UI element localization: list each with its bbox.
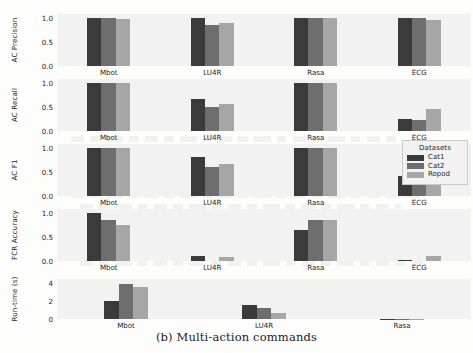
y-tick-label: 0.5 (13, 102, 53, 111)
x-tick-label-rasa: Rasa (307, 133, 324, 142)
bar-group (191, 79, 234, 131)
bar-cat2-rasa (308, 83, 322, 131)
bar-ropod-ecg (426, 256, 440, 261)
x-tick-label-rasa: Rasa (307, 68, 324, 77)
bars-container (57, 279, 471, 319)
bar-group (87, 14, 130, 66)
bar-cat2-rasa (308, 18, 322, 66)
x-tick-label-mbot: Mbot (100, 68, 118, 77)
bar-cat2-rasa (308, 220, 322, 261)
legend-entries: Cat1Cat2Ropod (407, 154, 463, 178)
bar-group (191, 144, 234, 196)
bar-ropod-ecg (426, 109, 440, 131)
x-tick-label-rasa: Rasa (393, 321, 410, 330)
bar-cat1-lu4r (191, 18, 205, 66)
bar-cat1-rasa (294, 148, 308, 196)
bar-cat2-rasa (308, 148, 322, 196)
bar-group (191, 14, 234, 66)
bar-group (87, 209, 130, 261)
bar-ropod-mbot (116, 148, 130, 196)
x-tick-label-mbot: Mbot (100, 198, 118, 207)
x-tick-label-mbot: Mbot (100, 263, 118, 272)
bar-cat1-lu4r (191, 256, 205, 261)
bar-cat2-ecg (412, 120, 426, 131)
bar-group (294, 144, 337, 196)
bar-cat2-lu4r (205, 25, 219, 66)
figure-caption: (b) Multi-action commands (0, 330, 473, 344)
y-tick-label: 0.0 (13, 192, 53, 201)
legend-entry-label: Cat2 (428, 163, 444, 170)
bar-cat1-ecg (398, 260, 412, 261)
bar-cat2-mbot (101, 18, 115, 66)
y-tick-label: 0.5 (13, 167, 53, 176)
bar-cat2-ecg (412, 18, 426, 66)
bar-group (294, 14, 337, 66)
bar-group (398, 79, 441, 131)
bars-container (57, 79, 471, 131)
bar-ropod-rasa (323, 148, 337, 196)
bar-cat2-mbot (101, 83, 115, 131)
y-tick-label: 1.0 (13, 78, 53, 87)
bar-cat2-lu4r (205, 107, 219, 131)
y-tick-label: 0.5 (13, 37, 53, 46)
bar-ropod-mbot (133, 287, 147, 319)
bar-cat2-mbot (101, 148, 115, 196)
bar-ropod-lu4r (219, 23, 233, 66)
bar-group (294, 79, 337, 131)
x-tick-label-mbot: Mbot (117, 321, 135, 330)
bar-cat1-lu4r (242, 305, 256, 319)
subplot-ac-precision (57, 14, 471, 66)
bar-cat1-rasa (294, 18, 308, 66)
subplot-ac-recall (57, 79, 471, 131)
x-tick-label-ecg: ECG (412, 68, 427, 77)
bars-container (57, 14, 471, 66)
legend-swatch-icon (407, 172, 424, 178)
y-tick-label: 0.0 (13, 257, 53, 266)
bar-group (87, 144, 130, 196)
x-tick-label-ecg: ECG (412, 198, 427, 207)
y-tick-label: 0.0 (13, 127, 53, 136)
bar-group (398, 14, 441, 66)
bar-cat1-mbot (87, 213, 101, 261)
x-tick-label-rasa: Rasa (307, 263, 324, 272)
y-tick-label: 0.5 (13, 232, 53, 241)
bar-group (398, 209, 441, 261)
bar-ropod-mbot (116, 83, 130, 131)
y-tick-label: 0 (13, 315, 53, 324)
bar-ropod-lu4r (219, 164, 233, 196)
legend-entry-label: Ropod (428, 171, 450, 178)
bar-cat1-mbot (87, 18, 101, 66)
bar-ropod-lu4r (219, 104, 233, 131)
subplot-fcr-accuracy (57, 209, 471, 261)
y-tick-label: 1.0 (13, 143, 53, 152)
legend-entry: Ropod (407, 171, 463, 178)
legend-swatch-icon (407, 163, 424, 169)
bar-group (380, 279, 423, 319)
bar-cat1-rasa (294, 230, 308, 261)
bar-cat1-ecg (398, 119, 412, 131)
legend-entry: Cat2 (407, 163, 463, 170)
legend-entry: Cat1 (407, 154, 463, 161)
y-tick-label: 1.0 (13, 208, 53, 217)
x-tick-label-lu4r: LU4R (203, 133, 221, 142)
bar-cat1-ecg (398, 18, 412, 66)
bar-ropod-lu4r (271, 313, 285, 319)
bar-cat1-mbot (87, 83, 101, 131)
bar-group (87, 79, 130, 131)
x-tick-label-lu4r: LU4R (203, 198, 221, 207)
y-tick-label: 2 (13, 296, 53, 305)
bar-cat2-lu4r (257, 308, 271, 319)
y-tick-label: 1.0 (13, 13, 53, 22)
bar-group (191, 209, 234, 261)
bar-group (294, 209, 337, 261)
bar-ropod-ecg (426, 20, 440, 66)
bar-cat2-mbot (119, 284, 133, 319)
bar-cat1-lu4r (191, 99, 205, 131)
legend-swatch-icon (407, 155, 424, 161)
bar-ropod-rasa (323, 220, 337, 261)
bars-container (57, 209, 471, 261)
x-tick-label-lu4r: LU4R (203, 68, 221, 77)
legend-title: Datasets (407, 144, 463, 152)
bar-cat2-mbot (101, 220, 115, 261)
bar-ropod-rasa (323, 83, 337, 131)
